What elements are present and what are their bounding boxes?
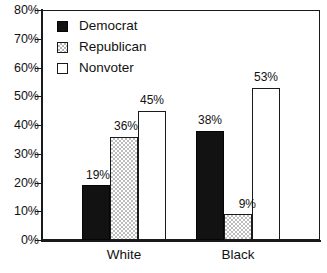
legend-swatch-democrat-icon — [57, 21, 68, 32]
x-axis-line — [41, 240, 321, 242]
bar-white-democrat — [82, 185, 110, 240]
y-axis-label-20: 20% — [0, 177, 39, 190]
value-label-black-republican: 9% — [220, 198, 256, 210]
y-axis-label-60: 60% — [0, 62, 39, 75]
legend-label-nonvoter: Nonvoter — [79, 61, 134, 76]
bar-chart: 80% 70% 60% 50% 40% 30% 20% 10% 0% 19% 3… — [0, 0, 327, 273]
value-label-white-democrat: 19% — [72, 169, 110, 181]
value-label-white-republican: 36% — [100, 120, 138, 132]
bar-black-democrat — [196, 131, 224, 240]
value-label-black-democrat: 38% — [191, 114, 229, 126]
y-axis-label-0: 0% — [0, 234, 39, 247]
y-axis-label-80: 80% — [0, 4, 39, 17]
x-axis-label-black: Black — [208, 248, 268, 262]
value-label-black-nonvoter: 53% — [247, 71, 285, 83]
y-axis-label-30: 30% — [0, 148, 39, 161]
legend-swatch-nonvoter-icon — [57, 63, 68, 74]
bar-white-republican — [110, 137, 138, 241]
bar-black-republican — [224, 214, 252, 240]
bar-white-nonvoter — [138, 111, 166, 240]
y-axis-label-70: 70% — [0, 33, 39, 46]
y-axis-label-50: 50% — [0, 90, 39, 103]
legend-label-democrat: Democrat — [79, 19, 138, 34]
bar-black-nonvoter — [252, 88, 280, 240]
value-label-white-nonvoter: 45% — [133, 94, 171, 106]
y-axis-label-40: 40% — [0, 119, 39, 132]
legend-swatch-republican-icon — [57, 42, 68, 53]
y-axis-label-10: 10% — [0, 205, 39, 218]
x-axis-label-white: White — [94, 248, 154, 262]
legend-label-republican: Republican — [79, 40, 147, 55]
